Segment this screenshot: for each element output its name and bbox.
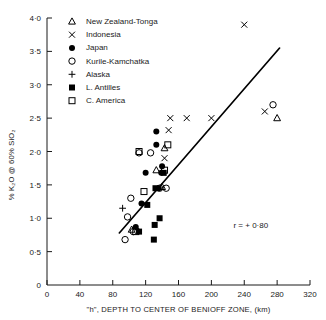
marker-filled-square (157, 215, 163, 221)
x-axis-tick-label: 320 (303, 290, 317, 299)
marker-open-circle (124, 214, 130, 220)
marker-open-circle (163, 185, 169, 191)
legend-item-label: Japan (86, 43, 108, 52)
marker-filled-square (151, 237, 157, 243)
data-point (166, 127, 172, 133)
y-axis-tick-label: 1·0 (29, 214, 41, 223)
legend-item-label: C. America (86, 96, 126, 105)
data-point (141, 189, 147, 195)
marker-filled-circle (153, 128, 159, 134)
marker-plus (119, 205, 126, 212)
y-axis-tick-label: 2·5 (29, 114, 41, 123)
marker-open-square (141, 189, 147, 195)
marker-filled-circle (153, 142, 159, 148)
legend-item-kurile-kamchatka[interactable]: Kurile-Kamchatka (69, 57, 150, 66)
marker-plus (69, 71, 76, 78)
marker-open-circle (136, 150, 142, 156)
legend-item-l-antilles[interactable]: L. Antilles (69, 83, 120, 92)
data-point (167, 115, 173, 121)
marker-open-triangle (274, 115, 281, 121)
y-axis-tick-label: 1·5 (29, 181, 41, 190)
marker-open-square (69, 98, 75, 104)
y-axis-tick-label: 0·5 (29, 248, 41, 257)
marker-cross-x (69, 32, 75, 38)
series-alaska (119, 205, 126, 212)
marker-filled-square (69, 85, 75, 91)
scatter-plot-figure: 0408012016020024028032000·51·01·52·02·53… (0, 0, 326, 320)
legend-item-label: New Zealand-Tonga (86, 17, 158, 26)
marker-open-circle (128, 195, 134, 201)
series-indonesia (162, 22, 268, 162)
data-point (270, 102, 276, 108)
data-point (143, 170, 149, 176)
legend-item-new-zealand-tonga[interactable]: New Zealand-Tonga (69, 17, 159, 26)
data-point (163, 185, 169, 191)
data-point (184, 115, 190, 121)
marker-cross-x (162, 155, 168, 161)
data-point (262, 108, 268, 114)
legend-marker (69, 85, 75, 91)
legend-marker (69, 45, 75, 51)
regression-line (119, 48, 279, 233)
data-point (241, 22, 247, 28)
legend-marker (69, 98, 75, 104)
marker-open-circle (122, 236, 128, 242)
data-point (162, 155, 168, 161)
legend-item-alaska[interactable]: Alaska (69, 70, 111, 79)
data-point (274, 115, 281, 121)
series-japan (133, 128, 165, 229)
y-axis-title: % K₂O @ 60% SiO₂ (7, 129, 16, 200)
data-point (208, 115, 214, 121)
data-point (153, 128, 159, 134)
data-point (136, 150, 142, 156)
legend-marker (69, 58, 75, 64)
data-point (151, 237, 157, 243)
marker-cross-x (167, 115, 173, 121)
legend-item-indonesia[interactable]: Indonesia (69, 30, 121, 39)
marker-filled-circle (69, 45, 75, 51)
marker-open-circle (69, 58, 75, 64)
data-point (153, 142, 159, 148)
benioff-zone-k2o-scatter-chart: 0408012016020024028032000·51·01·52·02·53… (0, 0, 326, 320)
data-point (152, 222, 158, 228)
legend-item-japan[interactable]: Japan (69, 43, 108, 52)
y-axis-tick-label: 2·0 (29, 148, 41, 157)
data-point (128, 195, 134, 201)
y-axis-tick-label: 3·5 (29, 47, 41, 56)
marker-filled-square (152, 222, 158, 228)
marker-filled-circle (143, 170, 149, 176)
marker-cross-x (166, 127, 172, 133)
legend-item-c-america[interactable]: C. America (69, 96, 126, 105)
x-axis-tick-label: 160 (172, 290, 186, 299)
marker-cross-x (241, 22, 247, 28)
marker-open-circle (270, 102, 276, 108)
marker-cross-x (184, 115, 190, 121)
series-new-zealand-tonga (128, 115, 280, 233)
x-axis-tick-label: 80 (108, 290, 117, 299)
legend-item-label: L. Antilles (86, 83, 120, 92)
data-point (119, 205, 126, 212)
x-axis-tick-label: 40 (75, 290, 84, 299)
legend-item-label: Indonesia (86, 30, 121, 39)
x-axis-tick-label: 120 (139, 290, 153, 299)
marker-cross-x (208, 115, 214, 121)
legend-item-label: Kurile-Kamchatka (86, 57, 150, 66)
y-axis-tick-label: 3·0 (29, 81, 41, 90)
legend-marker (69, 32, 75, 38)
x-axis-tick-label: 280 (270, 290, 284, 299)
x-axis-tick-label: 0 (45, 290, 50, 299)
marker-open-triangle (69, 18, 76, 24)
marker-filled-circle (159, 163, 165, 169)
legend-marker (69, 18, 76, 24)
x-axis-tick-label: 200 (205, 290, 219, 299)
marker-open-circle (147, 150, 153, 156)
data-points-layer (119, 22, 280, 243)
data-point (122, 236, 128, 242)
y-axis-tick-label: 0 (37, 281, 42, 290)
y-axis-tick-label: 4·0 (29, 14, 41, 23)
data-point (124, 214, 130, 220)
x-axis-tick-label: 240 (238, 290, 252, 299)
x-axis-title: "h", DEPTH TO CENTER OF BENIOFF ZONE, (k… (87, 305, 271, 314)
data-point (147, 150, 153, 156)
legend-marker (69, 71, 76, 78)
